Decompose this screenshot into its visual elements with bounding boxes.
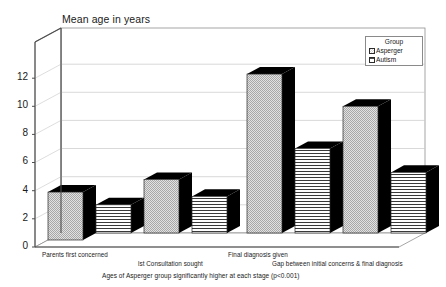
bar-asperger-3[interactable] — [247, 67, 295, 233]
bar-asperger-4[interactable] — [343, 99, 391, 233]
bar-autism-4[interactable] — [391, 165, 439, 233]
y-tick-label-0: 0 — [2, 240, 28, 251]
legend-item-asperger[interactable]: Asperger — [366, 46, 422, 55]
y-tick-label-4: 4 — [2, 184, 28, 195]
bar-asperger-1[interactable] — [48, 185, 96, 240]
x-axis-label-parents-first-concerned: Parents first concerned — [42, 251, 108, 258]
legend-item-autism[interactable]: Autism — [366, 55, 422, 64]
y-tick-label-12: 12 — [2, 71, 28, 82]
x-axis-label-1st-consultation-sought: lst Consultation sought — [138, 260, 203, 267]
bar-autism-2[interactable] — [192, 189, 240, 233]
legend-label-asperger: Asperger — [376, 46, 403, 55]
bar-autism-1[interactable] — [96, 198, 144, 233]
y-tick-label-6: 6 — [2, 155, 28, 166]
y-tick-label-8: 8 — [2, 127, 28, 138]
y-tick-label-2: 2 — [2, 212, 28, 223]
legend-label-autism: Autism — [376, 55, 396, 64]
legend-swatch-asperger — [369, 48, 375, 54]
x-axis-label-final-diagnosis-given: Final diagnosis given — [228, 251, 288, 258]
legend-swatch-autism — [369, 57, 375, 63]
bar-autism-3[interactable] — [295, 141, 343, 233]
y-tick-label-10: 10 — [2, 99, 28, 110]
chart-legend: Group Asperger Autism — [365, 36, 423, 66]
chart-footnote: Ages of Asperger group significantly hig… — [102, 272, 300, 279]
legend-title: Group — [366, 38, 422, 46]
x-axis-label-gap-initial-final: Gap between initial concerns & final dia… — [272, 260, 403, 267]
bar-asperger-2[interactable] — [144, 172, 192, 233]
chart-container: Mean age in years — [0, 0, 446, 287]
